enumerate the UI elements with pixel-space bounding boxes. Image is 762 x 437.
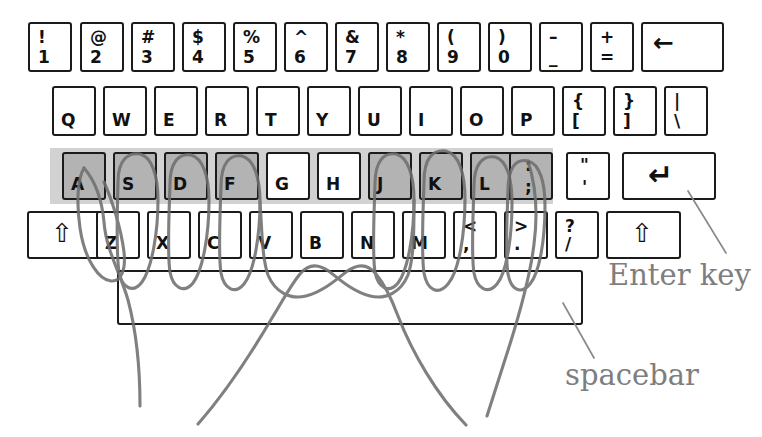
key-legend: U xyxy=(367,112,381,129)
key-legend: R xyxy=(214,112,227,129)
key-legend: Y xyxy=(316,112,328,129)
left-arrow-icon: ← xyxy=(653,30,674,55)
key-legend: A xyxy=(71,176,84,193)
enter-key[interactable]: ↵ xyxy=(622,152,716,200)
key-legend: I xyxy=(418,112,424,129)
key-s[interactable]: S xyxy=(113,152,157,200)
shift-up-arrow-icon: ⇧ xyxy=(631,220,653,246)
key-legend-bottom: ' xyxy=(582,179,587,196)
key-legend: M xyxy=(411,235,428,252)
key-a[interactable]: A xyxy=(62,152,106,200)
key-bracket-right[interactable]: } ] xyxy=(613,86,657,136)
key-legend-bottom: = xyxy=(600,49,614,66)
key-i[interactable]: I xyxy=(409,86,453,136)
key-3[interactable]: # 3 xyxy=(131,22,175,72)
left-shift-key[interactable]: ⇧ xyxy=(27,211,105,259)
key-legend-bottom: 1 xyxy=(38,49,50,66)
key-minus[interactable]: – _ xyxy=(539,22,583,72)
key-m[interactable]: M xyxy=(402,211,446,259)
key-quote[interactable]: " ' xyxy=(566,152,610,200)
key-legend-top: ) xyxy=(498,29,506,46)
key-legend: X xyxy=(156,235,169,252)
key-legend-top: % xyxy=(243,29,260,46)
key-legend-bottom: 6 xyxy=(294,49,306,66)
key-d[interactable]: D xyxy=(164,152,208,200)
key-equals[interactable]: + = xyxy=(590,22,634,72)
key-legend: Q xyxy=(61,112,75,129)
key-q[interactable]: Q xyxy=(52,86,96,136)
key-p[interactable]: P xyxy=(511,86,555,136)
key-6[interactable]: ^ 6 xyxy=(284,22,328,72)
right-shift-key[interactable]: ⇧ xyxy=(606,211,681,259)
key-t[interactable]: T xyxy=(256,86,300,136)
key-backslash[interactable]: | \ xyxy=(664,86,708,136)
key-k[interactable]: K xyxy=(419,152,463,200)
key-z[interactable]: Z xyxy=(96,211,140,259)
key-legend-bottom: [ xyxy=(572,113,580,130)
key-4[interactable]: $ 4 xyxy=(182,22,226,72)
key-e[interactable]: E xyxy=(154,86,198,136)
key-c[interactable]: C xyxy=(198,211,242,259)
key-legend-bottom: 9 xyxy=(447,49,459,66)
key-legend: B xyxy=(309,235,322,252)
key-v[interactable]: V xyxy=(249,211,293,259)
key-legend-top: ^ xyxy=(294,29,308,46)
key-bracket-left[interactable]: { [ xyxy=(562,86,606,136)
key-legend: L xyxy=(479,176,490,193)
key-legend-bottom: ; xyxy=(525,179,532,196)
key-legend-bottom: _ xyxy=(549,49,558,66)
key-f[interactable]: F xyxy=(215,152,259,200)
key-legend: O xyxy=(469,112,483,129)
spacebar-key[interactable] xyxy=(117,270,583,325)
key-legend-top: " xyxy=(580,157,589,174)
key-legend-top: ! xyxy=(38,29,46,46)
key-legend-top: } xyxy=(623,93,635,110)
key-legend: D xyxy=(173,176,187,193)
key-9[interactable]: ( 9 xyxy=(437,22,481,72)
enter-key-leader-line xyxy=(688,191,726,253)
enter-arrow-icon: ↵ xyxy=(648,160,673,190)
key-period[interactable]: > . xyxy=(504,211,548,259)
key-legend-bottom: \ xyxy=(674,113,680,130)
key-w[interactable]: W xyxy=(103,86,147,136)
key-g[interactable]: G xyxy=(266,152,310,200)
key-legend: N xyxy=(360,235,374,252)
shift-up-arrow-icon: ⇧ xyxy=(51,220,73,246)
key-slash[interactable]: ? / xyxy=(555,211,599,259)
key-0[interactable]: ) 0 xyxy=(488,22,532,72)
key-legend: T xyxy=(265,112,277,129)
key-8[interactable]: * 8 xyxy=(386,22,430,72)
key-u[interactable]: U xyxy=(358,86,402,136)
key-legend: P xyxy=(520,112,532,129)
key-5[interactable]: % 5 xyxy=(233,22,277,72)
key-legend: K xyxy=(428,176,441,193)
key-legend-top: # xyxy=(141,29,155,46)
key-7[interactable]: & 7 xyxy=(335,22,379,72)
key-legend: Z xyxy=(105,235,117,252)
key-1[interactable]: ! 1 xyxy=(28,22,72,72)
key-r[interactable]: R xyxy=(205,86,249,136)
key-legend: E xyxy=(163,112,175,129)
key-h[interactable]: H xyxy=(317,152,361,200)
backspace-key[interactable]: ← xyxy=(641,22,724,72)
key-comma[interactable]: < , xyxy=(453,211,497,259)
key-legend: C xyxy=(207,235,219,252)
key-o[interactable]: O xyxy=(460,86,504,136)
key-x[interactable]: X xyxy=(147,211,191,259)
key-legend-bottom: ] xyxy=(623,113,631,130)
key-y[interactable]: Y xyxy=(307,86,351,136)
key-legend-top: – xyxy=(549,29,558,46)
key-legend: F xyxy=(224,176,236,193)
key-n[interactable]: N xyxy=(351,211,395,259)
key-semicolon[interactable]: : ; xyxy=(509,152,553,200)
key-l[interactable]: L xyxy=(470,152,514,200)
key-legend-top: & xyxy=(345,29,360,46)
key-2[interactable]: @ 2 xyxy=(80,22,124,72)
key-legend: G xyxy=(275,176,289,193)
enter-key-callout: Enter key xyxy=(608,258,751,292)
key-b[interactable]: B xyxy=(300,211,344,259)
key-legend-bottom: 2 xyxy=(90,49,102,66)
key-j[interactable]: J xyxy=(368,152,412,200)
key-legend-bottom: 0 xyxy=(498,49,510,66)
key-legend-bottom: 7 xyxy=(345,49,357,66)
